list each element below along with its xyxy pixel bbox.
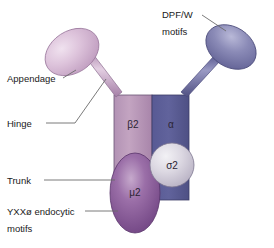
sigma2-label: σ2 (166, 160, 178, 171)
yxx-motifs-label-line2: motifs (7, 223, 33, 234)
dpfw-motifs-label-line2: motifs (162, 26, 188, 37)
alpha-label: α (168, 119, 174, 130)
trunk-label: Trunk (7, 175, 31, 186)
alpha-hinge-rod (181, 56, 220, 97)
appendage-label: Appendage (7, 73, 56, 84)
ap2-diagram: β2 α σ2 μ2 Appendage Hinge Trunk YXXø en… (0, 0, 274, 248)
dpfw-motifs-label-line1: DPF/W (162, 9, 193, 20)
ap2-complex-figure: β2 α σ2 μ2 Appendage Hinge Trunk YXXø en… (0, 0, 274, 248)
mu2-label: μ2 (129, 187, 141, 198)
hinge-leader-line-diagonal (75, 79, 106, 123)
hinge-label: Hinge (7, 118, 32, 129)
beta2-label: β2 (127, 119, 139, 130)
yxx-motifs-label-line1: YXXø endocytic (7, 206, 75, 217)
alpha-hinge-shape (181, 56, 220, 97)
